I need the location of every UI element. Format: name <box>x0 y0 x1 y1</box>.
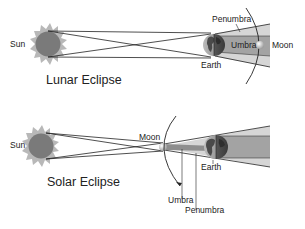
lunar-earth-icon <box>203 34 225 56</box>
lunar-moon-icon <box>256 41 264 49</box>
solar-eclipse-title: Solar Eclipse <box>47 175 120 189</box>
lunar-sun-label: Sun <box>10 39 25 49</box>
lunar-penumbra-label: Penumbra <box>212 14 251 24</box>
solar-moon-icon <box>159 143 167 151</box>
solar-penumbra-label: Penumbra <box>185 205 224 215</box>
solar-sun-icon <box>22 125 59 167</box>
solar-earth-label: Earth <box>201 162 222 172</box>
solar-sun-label: Sun <box>10 140 25 150</box>
lunar-eclipse-panel: Sun Penumbra Umbra Moon Earth Lunar Ecli… <box>10 8 294 87</box>
lunar-eclipse-title: Lunar Eclipse <box>46 73 122 87</box>
solar-eclipse-panel: Sun Moon Earth Umbra Penumbra Solar Ecli… <box>10 116 270 215</box>
solar-moon-label: Moon <box>139 132 161 142</box>
solar-umbra-label: Umbra <box>168 195 194 205</box>
eclipse-diagram: Sun Penumbra Umbra Moon Earth Lunar Ecli… <box>0 0 305 229</box>
solar-earth-icon <box>204 135 228 159</box>
lunar-earth-label: Earth <box>201 60 222 70</box>
lunar-moon-label: Moon <box>272 40 294 50</box>
lunar-umbra-label: Umbra <box>231 40 257 50</box>
lunar-sun-icon <box>30 23 67 65</box>
